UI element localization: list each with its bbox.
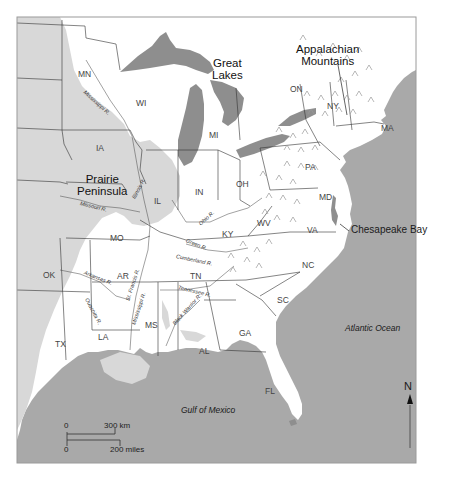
appalachian-mountains-label: Appalachian Mountains [296, 43, 359, 67]
prairie-peninsula-label: Prairie Peninsula [77, 173, 128, 197]
state-label-in: IN [195, 188, 204, 197]
state-label-ma: MA [381, 124, 394, 133]
state-label-tn: TN [190, 272, 201, 281]
state-label-mi: MI [209, 131, 218, 140]
scale-mi-zero: 0 [64, 446, 68, 454]
scale-mi-label: 200 miles [110, 446, 144, 454]
state-label-mo: MO [110, 234, 124, 243]
state-label-ky: KY [222, 230, 233, 239]
state-label-nc: NC [302, 261, 314, 270]
state-label-wi: WI [136, 99, 146, 108]
gulf-of-mexico-label: Gulf of Mexico [181, 406, 235, 415]
state-label-ms: MS [145, 321, 158, 330]
scale-km-zero: 0 [64, 422, 68, 430]
state-label-on: ON [290, 85, 303, 94]
state-label-ok: OK [43, 271, 55, 280]
state-label-ny: NY [327, 102, 339, 111]
state-label-pa: PA [305, 163, 316, 172]
state-label-il: IL [154, 197, 161, 206]
state-label-al: AL [199, 347, 209, 356]
state-label-la: LA [98, 333, 108, 342]
state-label-va: VA [307, 226, 318, 235]
state-label-oh: OH [236, 180, 249, 189]
state-label-wv: WV [257, 219, 271, 228]
state-label-md: MD [319, 193, 332, 202]
state-label-ar: AR [117, 272, 129, 281]
state-label-ia: IA [96, 144, 104, 153]
great-lakes-label: Great Lakes [212, 57, 243, 81]
state-label-mn: MN [78, 70, 91, 79]
chesapeake-bay-label: Chesapeake Bay [351, 225, 427, 235]
state-label-sc: SC [277, 296, 289, 305]
state-label-fl: FL [265, 387, 275, 396]
scale-km-label: 300 km [104, 422, 130, 430]
state-label-ga: GA [239, 329, 251, 338]
north-label: N [404, 381, 412, 392]
atlantic-ocean-label: Atlantic Ocean [345, 324, 400, 333]
state-label-tx: TX [55, 340, 66, 349]
